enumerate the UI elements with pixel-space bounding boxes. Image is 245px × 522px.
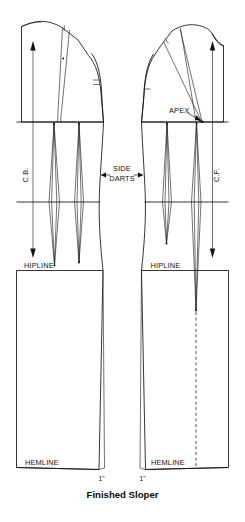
side-darts-label-line1: SIDE: [113, 164, 131, 173]
back-sloper-panel: C.B. HIPLINE HEMLINE: [17, 21, 106, 482]
side-darts-arrowhead-left: [101, 173, 107, 178]
back-bodice-outline: [22, 21, 104, 122]
front-outer-dart-point-bottom: [195, 310, 197, 312]
figure-caption: Finished Sloper: [87, 489, 159, 500]
apex-label: APEX: [169, 106, 189, 115]
front-hemline-label: HEMLINE: [151, 458, 185, 467]
front-sloper-panel: APEX C.F.: [139, 25, 228, 482]
front-hipline-label: HIPLINE: [151, 261, 181, 270]
front-skirt-outline: [142, 271, 229, 470]
side-darts-arrowhead-right: [138, 173, 144, 178]
back-dart-point-top: [53, 123, 55, 125]
side-darts-callout: SIDE DARTS: [101, 164, 144, 183]
front-outer-dart-point-top: [196, 123, 198, 125]
back-shoulder-notch-tick: [64, 26, 65, 32]
front-inner-dart-point-top: [166, 123, 168, 125]
front-inner-dart-point-bottom: [166, 243, 168, 245]
front-grainline-arrow: [210, 41, 215, 258]
front-grainline-arrowhead-down: [210, 249, 215, 259]
front-side-seam: [142, 122, 146, 271]
back-hem-ease-label: 1": [98, 475, 105, 482]
back-waist-dart-inner: [49, 123, 60, 267]
back-outer-dart-point-top: [78, 123, 80, 125]
back-waist-dart-outer: [75, 123, 84, 264]
back-hemline: [17, 468, 100, 470]
center-front-label: C.F.: [212, 168, 221, 182]
back-armhole-curve: [92, 54, 104, 123]
front-hemline: [146, 468, 229, 470]
front-hem-ease-label: 1": [139, 475, 146, 482]
back-shoulder-dart-point: [62, 58, 64, 60]
back-outer-dart-point-bottom: [78, 262, 80, 264]
back-grainline-arrow: [30, 41, 35, 258]
front-grainline-arrowhead-up: [210, 41, 215, 51]
back-grainline-arrowhead-down: [30, 249, 35, 259]
front-armhole-curve: [142, 54, 154, 122]
front-waist-dart-outer: [192, 123, 202, 312]
front-waist-dart-inner: [163, 123, 172, 245]
front-shoulder-notch-tick: [165, 39, 169, 44]
center-back-label: C.B.: [21, 168, 30, 183]
side-darts-label-line2: DARTS: [109, 174, 135, 183]
back-hemline-label: HEMLINE: [25, 458, 59, 467]
back-hipline-label: HIPLINE: [24, 261, 54, 270]
finished-sloper-diagram: C.B. HIPLINE HEMLINE: [0, 0, 245, 522]
back-skirt-outline: [17, 271, 104, 470]
back-grainline-arrowhead-up: [30, 41, 35, 51]
back-side-seam: [99, 122, 103, 271]
